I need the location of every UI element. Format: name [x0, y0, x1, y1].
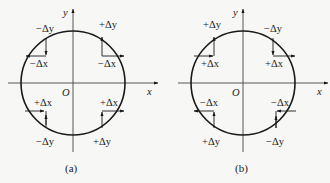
step-dx-label: +Δx [265, 58, 284, 69]
step-bottom-left: +Δx −Δy [25, 97, 55, 147]
step-dy-label: −Δy [36, 23, 55, 34]
x-axis-label: x [146, 86, 152, 97]
diagram-b: y x O +Δy +Δx −Δy +Δx −Δx +Δy [178, 7, 328, 175]
step-bottom-right: −Δx −Δy [266, 97, 296, 147]
step-top-left: −Δy −Δx [26, 23, 55, 69]
step-dy-label: −Δy [266, 136, 285, 147]
step-dy-label: −Δy [36, 136, 55, 147]
origin-label: O [232, 87, 240, 98]
diagram-a: y x O −Δy −Δx +Δy −Δx +Δx −Δy [8, 7, 158, 175]
step-dy-label: +Δy [93, 136, 112, 147]
circle-interpolation-figure: y x O −Δy −Δx +Δy −Δx +Δx −Δy [0, 0, 330, 183]
step-dx-label: −Δx [271, 97, 290, 108]
caption-a: (a) [65, 162, 78, 175]
y-axis-label: y [62, 7, 68, 18]
y-axis-label: y [232, 7, 238, 18]
step-dx-label: +Δx [100, 97, 119, 108]
step-dy-label: −Δy [264, 23, 283, 34]
step-dx-label: −Δx [200, 97, 219, 108]
origin-label: O [62, 87, 70, 98]
step-dx-label: +Δx [34, 97, 53, 108]
x-axis-label: x [316, 86, 322, 97]
step-dy-label: +Δy [202, 136, 221, 147]
caption-b: (b) [235, 162, 248, 175]
step-dx-label: −Δx [98, 58, 117, 69]
step-dy-label: +Δy [99, 19, 118, 30]
step-bottom-left: −Δx +Δy [194, 97, 221, 147]
step-dx-label: −Δx [30, 58, 49, 69]
step-dx-label: +Δx [201, 58, 220, 69]
step-dy-label: +Δy [203, 19, 222, 30]
